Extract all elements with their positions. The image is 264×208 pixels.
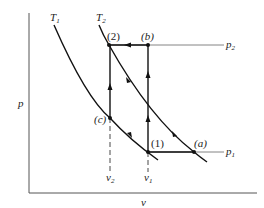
arrow-left-b2 bbox=[124, 43, 131, 48]
t1-label: T1 bbox=[50, 11, 60, 25]
point-1-label: (1) bbox=[151, 137, 164, 150]
y-axis-label: p bbox=[17, 97, 24, 109]
p1-label: p1 bbox=[225, 145, 235, 159]
point-a-label: (a) bbox=[194, 137, 207, 150]
p2-label: p2 bbox=[225, 38, 236, 52]
point-b-dot bbox=[146, 43, 150, 47]
arrow-up-c2 bbox=[108, 83, 113, 90]
arrow-up-1b-high bbox=[146, 71, 151, 78]
point-2-dot bbox=[107, 43, 111, 47]
arrow-up-1b-low bbox=[146, 115, 151, 122]
point-1-dot bbox=[146, 150, 150, 154]
arrow-t2-lower bbox=[172, 131, 177, 137]
point-b-label: (b) bbox=[141, 30, 154, 43]
pv-diagram: p v T1 T2 p2 p1 v2 v1 (2) (b) (c) (1) (a… bbox=[0, 0, 264, 208]
x-axis-label: v bbox=[141, 196, 146, 208]
t2-label: T2 bbox=[96, 11, 106, 25]
v1-label: v1 bbox=[144, 171, 152, 185]
point-2-label: (2) bbox=[107, 30, 120, 43]
point-c-dot bbox=[108, 116, 112, 120]
point-a-dot bbox=[192, 150, 196, 154]
point-c-label: (c) bbox=[94, 113, 107, 126]
v2-label: v2 bbox=[106, 171, 115, 185]
